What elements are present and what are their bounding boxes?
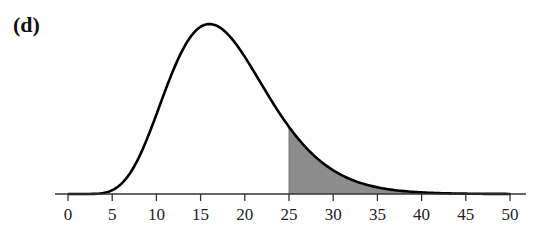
density-chart: 05101520253035404550 [0, 0, 536, 232]
x-tick-label: 35 [369, 205, 386, 224]
x-tick-label: 20 [236, 205, 253, 224]
x-tick-label: 45 [457, 205, 474, 224]
x-tick-label: 40 [413, 205, 430, 224]
x-tick-label: 15 [192, 205, 209, 224]
shaded-area [289, 127, 510, 194]
shaded-tail-area [289, 127, 510, 194]
x-tick-label: 50 [502, 205, 519, 224]
x-tick-label: 5 [108, 205, 117, 224]
x-axis-ticks: 05101520253035404550 [64, 194, 519, 224]
x-tick-label: 25 [281, 205, 298, 224]
x-tick-label: 10 [148, 205, 165, 224]
x-tick-label: 30 [325, 205, 342, 224]
x-tick-label: 0 [64, 205, 73, 224]
